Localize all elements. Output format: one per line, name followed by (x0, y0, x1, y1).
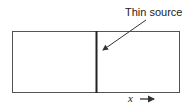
diagram: Thin source x (0, 0, 195, 110)
x-axis-label: x (127, 92, 133, 104)
annotation-label: Thin source (125, 6, 182, 18)
annotation-arrow (103, 20, 146, 50)
